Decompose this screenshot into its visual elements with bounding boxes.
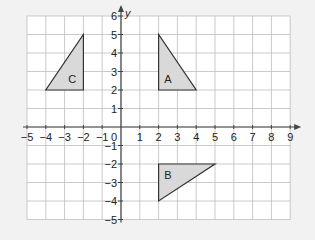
y-tick-label: 5 — [111, 29, 117, 41]
y-tick-label: −3 — [104, 177, 117, 189]
x-tick-label: −4 — [40, 131, 53, 143]
x-tick-label: 8 — [268, 131, 274, 143]
triangle-label-c: C — [68, 73, 76, 85]
x-tick-label: 1 — [137, 131, 143, 143]
x-tick-label: −2 — [77, 131, 90, 143]
x-tick-label: 2 — [156, 131, 162, 143]
y-tick-label: 1 — [111, 103, 117, 115]
x-tick-label: 7 — [250, 131, 256, 143]
x-axis-arrow-icon — [294, 124, 301, 130]
y-tick-label: 6 — [111, 10, 117, 22]
triangle-label-a: A — [164, 73, 172, 85]
x-tick-label: 5 — [212, 131, 218, 143]
y-axis-arrow-icon — [118, 5, 124, 12]
y-tick-label: 2 — [111, 84, 117, 96]
y-tick-label: 3 — [111, 66, 117, 78]
y-tick-label: −5 — [104, 214, 117, 226]
coordinate-grid: ABC−5−4−3−2−11234567890654321−1−2−3−4−5y — [0, 0, 315, 240]
y-tick-label: −4 — [104, 195, 117, 207]
x-tick-label: 3 — [174, 131, 180, 143]
x-tick-label: −5 — [21, 131, 34, 143]
x-tick-label: 9 — [287, 131, 293, 143]
y-tick-label: −2 — [104, 158, 117, 170]
x-tick-label: −3 — [58, 131, 71, 143]
triangle-label-b: B — [164, 169, 171, 181]
y-tick-label: −1 — [104, 140, 117, 152]
x-tick-label: 6 — [231, 131, 237, 143]
x-tick-label: 4 — [193, 131, 199, 143]
y-tick-label: 4 — [111, 47, 117, 59]
